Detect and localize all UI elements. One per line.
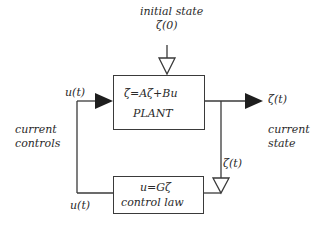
output-label-line1: current — [268, 124, 310, 135]
controller-name: control law — [121, 197, 184, 208]
controller-equation: u=Gζ — [140, 182, 171, 193]
input-symbol: u(t) — [65, 87, 85, 98]
plant-block: ζ̇=Aζ+Bu PLANT — [113, 75, 205, 130]
feedback-arrow-icon — [213, 178, 229, 193]
plant-equation: ζ̇=Aζ+Bu — [124, 88, 177, 99]
controller-output-symbol: u(t) — [70, 200, 90, 211]
output-symbol: ζ(t) — [268, 94, 287, 105]
plant-name: PLANT — [133, 108, 173, 119]
output-label-line2: state — [268, 138, 296, 149]
output-arrow-icon — [245, 93, 263, 109]
feedback-symbol: ζ(t) — [223, 158, 242, 169]
input-label-line2: controls — [15, 138, 60, 149]
input-label-line1: current — [15, 124, 57, 135]
initial-state-arrow-icon — [159, 58, 175, 74]
control-input-arrow-icon — [95, 93, 113, 109]
block-diagram: initial state ζ(0) ζ̇=Aζ+Bu PLANT u=Gζ c… — [0, 0, 331, 227]
initial-state-label: initial state — [140, 6, 203, 17]
initial-state-symbol: ζ(0) — [156, 20, 178, 31]
controller-block: u=Gζ control law — [113, 176, 204, 214]
